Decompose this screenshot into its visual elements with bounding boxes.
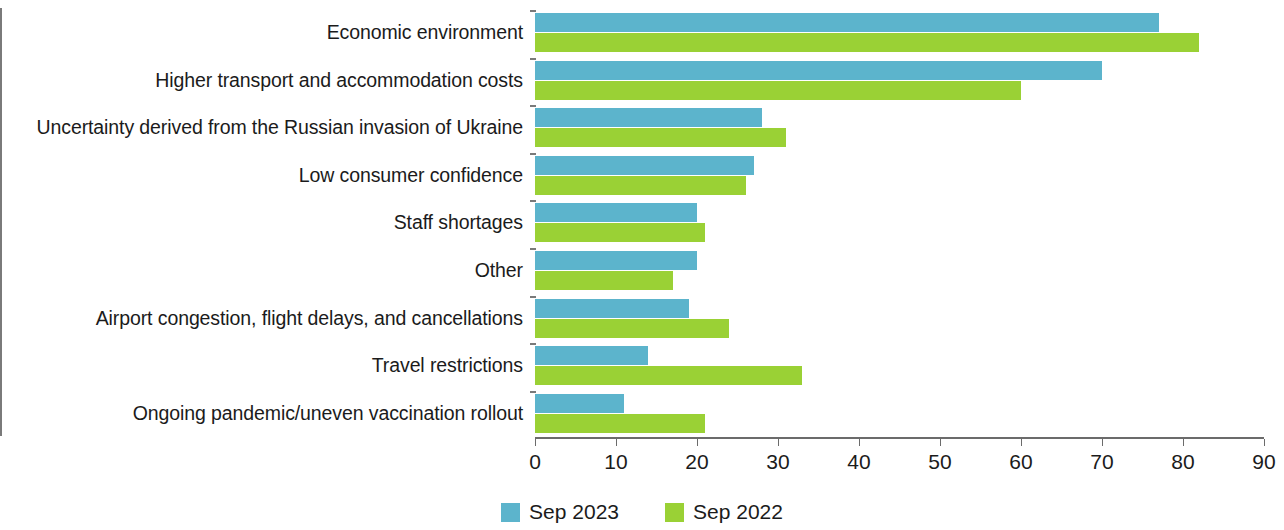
- y-axis-tick: [530, 248, 536, 250]
- bar-sep-2023: [535, 394, 624, 413]
- x-axis-tick-label: 10: [586, 450, 646, 474]
- bar-sep-2022: [535, 319, 729, 338]
- x-axis-tick-label: 40: [829, 450, 889, 474]
- bar-sep-2022: [535, 223, 705, 242]
- bar-group: [535, 394, 1270, 434]
- category-label: Higher transport and accommodation costs: [3, 69, 523, 91]
- y-axis-tick: [530, 391, 536, 393]
- bar-sep-2022: [535, 33, 1199, 52]
- legend-label: Sep 2023: [529, 500, 619, 524]
- x-axis-tick-label: 0: [505, 450, 565, 474]
- bar-sep-2022: [535, 176, 746, 195]
- bar-sep-2023: [535, 346, 648, 365]
- bar-sep-2022: [535, 366, 802, 385]
- y-axis-tick: [530, 10, 536, 12]
- y-axis-tick: [530, 58, 536, 60]
- y-axis-tick: [530, 200, 536, 202]
- x-axis-tick: [859, 439, 860, 446]
- y-axis-tick: [530, 343, 536, 345]
- y-axis-tick: [530, 296, 536, 298]
- bar-group: [535, 251, 1270, 291]
- x-axis-tick: [1102, 439, 1103, 446]
- category-label: Travel restrictions: [3, 354, 523, 376]
- legend-item: Sep 2022: [665, 500, 783, 524]
- y-axis-tick: [530, 105, 536, 107]
- y-axis-tick: [530, 153, 536, 155]
- bar-sep-2023: [535, 13, 1159, 32]
- x-axis-line: [535, 437, 1264, 439]
- bar-group: [535, 203, 1270, 243]
- bar-group: [535, 299, 1270, 339]
- x-axis-tick: [778, 439, 779, 446]
- bar-sep-2023: [535, 299, 689, 318]
- bar-sep-2023: [535, 156, 754, 175]
- legend-swatch-icon: [665, 503, 684, 522]
- chart-legend: Sep 2023Sep 2022: [0, 500, 1284, 524]
- bar-chart: Economic environmentHigher transport and…: [0, 0, 1284, 530]
- x-axis-tick-label: 20: [667, 450, 727, 474]
- y-axis-line: [0, 8, 2, 436]
- legend-item: Sep 2023: [501, 500, 619, 524]
- x-axis-tick-label: 80: [1153, 450, 1213, 474]
- bar-group: [535, 13, 1270, 53]
- category-axis-labels: Economic environmentHigher transport and…: [0, 8, 523, 438]
- x-axis-tick: [1183, 439, 1184, 446]
- bar-sep-2023: [535, 108, 762, 127]
- legend-label: Sep 2022: [693, 500, 783, 524]
- x-axis-tick-label: 30: [748, 450, 808, 474]
- x-axis-tick: [697, 439, 698, 446]
- x-axis-tick: [1264, 439, 1265, 446]
- category-label: Airport congestion, flight delays, and c…: [3, 307, 523, 329]
- legend-swatch-icon: [501, 503, 520, 522]
- category-label: Uncertainty derived from the Russian inv…: [3, 116, 523, 138]
- bar-sep-2023: [535, 203, 697, 222]
- bar-sep-2022: [535, 128, 786, 147]
- bar-sep-2022: [535, 81, 1021, 100]
- category-label: Ongoing pandemic/uneven vaccination roll…: [3, 402, 523, 424]
- x-axis-tick: [940, 439, 941, 446]
- x-axis-tick-label: 60: [991, 450, 1051, 474]
- x-axis-tick: [616, 439, 617, 446]
- category-label: Staff shortages: [3, 211, 523, 233]
- category-label: Other: [3, 259, 523, 281]
- x-axis-tick: [1021, 439, 1022, 446]
- x-axis-tick-label: 50: [910, 450, 970, 474]
- bar-sep-2022: [535, 414, 705, 433]
- plot-area: [535, 8, 1270, 438]
- bar-sep-2022: [535, 271, 673, 290]
- bar-group: [535, 346, 1270, 386]
- x-axis-tick-label: 70: [1072, 450, 1132, 474]
- x-axis-tick: [535, 439, 536, 446]
- bar-group: [535, 108, 1270, 148]
- category-label: Low consumer confidence: [3, 164, 523, 186]
- bar-group: [535, 156, 1270, 196]
- category-label: Economic environment: [3, 21, 523, 43]
- bar-group: [535, 61, 1270, 101]
- bar-sep-2023: [535, 251, 697, 270]
- x-axis-tick-label: 90: [1234, 450, 1284, 474]
- bar-sep-2023: [535, 61, 1102, 80]
